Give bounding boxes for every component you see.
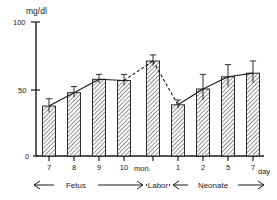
bar-3 (118, 80, 131, 156)
bar-0 (43, 106, 56, 156)
y-tick-50-label: 50 (18, 86, 26, 95)
x-unit-day-label: day (258, 167, 270, 176)
x-label-2-day: 2 (201, 163, 205, 172)
y-tick-0-label: 0 (25, 152, 29, 161)
bracket-fetus: Fetus (34, 178, 143, 192)
x-unit-mon-label: mon. (134, 164, 151, 173)
bar-2 (93, 79, 106, 156)
x-tick-layer (49, 156, 253, 161)
bracket-neonate: Neonate (173, 178, 264, 192)
bracket-fetus-label: Fetus (66, 181, 86, 190)
bar-7 (222, 77, 235, 156)
x-label-7-mon: 7 (47, 163, 51, 172)
x-label-9-mon: 9 (97, 163, 101, 172)
chart-canvas: mg/dl 100 50 0 7 8 9 10 mo (0, 0, 277, 200)
x-label-8-mon: 8 (72, 163, 76, 172)
y-tick-100-label: 100 (13, 18, 26, 27)
x-label-10-mon: 10 (120, 163, 128, 172)
bar-1 (68, 93, 81, 156)
bracket-labor-label: Labor (148, 181, 169, 190)
bar-4 (147, 61, 160, 156)
bar-8 (247, 73, 260, 156)
chart-figure: mg/dl 100 50 0 7 8 9 10 mo (0, 0, 277, 200)
bracket-labor: Labor (146, 178, 170, 192)
x-label-5-day: 5 (226, 163, 230, 172)
bars-layer (43, 61, 260, 156)
x-label-1-day: 1 (176, 163, 180, 172)
y-axis-title: mg/dl (26, 6, 47, 16)
x-label-7-day: 7 (251, 163, 255, 172)
bracket-neonate-label: Neonate (198, 181, 229, 190)
bar-5 (172, 105, 185, 156)
